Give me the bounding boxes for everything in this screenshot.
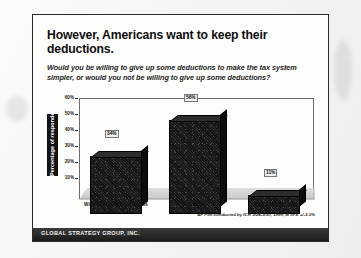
bar-side-3d	[141, 145, 148, 207]
slide-footer-bar: GLOBAL STRATEGY GROUP, INC.	[33, 228, 328, 241]
y-tick-50: 50%	[57, 111, 74, 116]
y-tick-60: 60%	[57, 95, 74, 100]
bar-value-willing: 34%	[105, 130, 119, 138]
presentation-slide: However, Americans want to keep their de…	[32, 14, 329, 242]
footer-brand-label: GLOBAL STRATEGY GROUP, INC.	[41, 230, 140, 236]
bar-value-dont-know: 11%	[264, 169, 277, 177]
chart-source-note: AP Poll conducted by ICR 3/24-3/30, 1999…	[197, 212, 315, 217]
x-label-not-willing: Not willing	[161, 202, 229, 207]
poll-question-subtitle: Would you be willing to give up some ded…	[47, 63, 313, 83]
slide-title: However, Americans want to keep their de…	[47, 29, 309, 56]
bar-chart: Percentage of respondents 60% 50% 40% 30…	[43, 92, 323, 220]
bar-value-not-willing: 56%	[184, 94, 198, 102]
plot-right-border	[313, 98, 314, 199]
bar-not-willing[interactable]	[169, 120, 221, 214]
scan-artifact	[6, 96, 28, 122]
scan-artifact	[334, 40, 352, 100]
x-label-willing: Willing to give up deductions	[73, 202, 159, 207]
y-tick-20: 20%	[57, 159, 74, 164]
y-tick-30: 30%	[57, 143, 74, 148]
y-tick-10: 10%	[57, 175, 74, 180]
x-label-dont-know: Don't know/Refused	[237, 202, 313, 207]
bar-side-3d	[220, 109, 227, 207]
y-tick-40: 40%	[57, 127, 74, 132]
bar-texture	[170, 121, 220, 213]
